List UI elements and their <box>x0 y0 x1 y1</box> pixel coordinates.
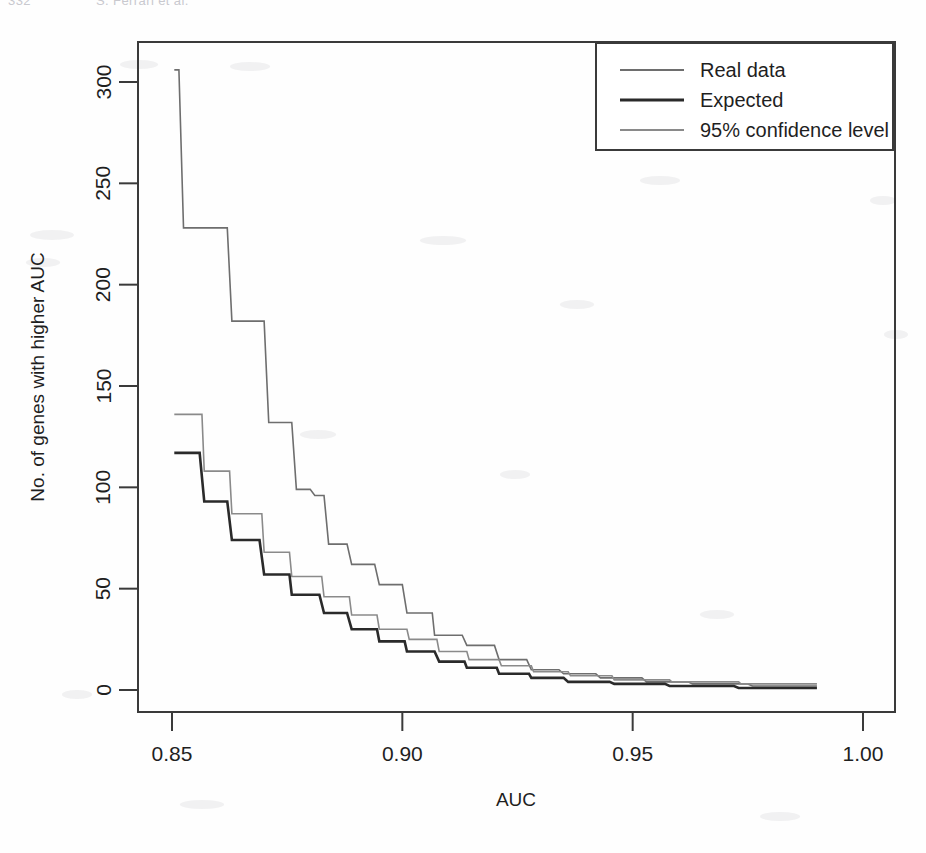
y-tick-label: 150 <box>92 368 115 403</box>
series-line-95-confidence-level <box>174 414 817 684</box>
data-series-group <box>174 70 817 688</box>
y-tick-label: 0 <box>92 684 115 696</box>
scanned-page: 332 S. Ferrari et al. 0.850.900.951.00 0… <box>0 0 926 853</box>
x-tick-label: 0.85 <box>152 742 193 765</box>
x-axis-tick-labels: 0.850.900.951.00 <box>152 742 884 765</box>
legend-label: Expected <box>700 89 783 111</box>
y-tick-label: 50 <box>92 577 115 600</box>
x-tick-label: 0.90 <box>382 742 423 765</box>
chart-legend: Real dataExpected95% confidence level <box>596 43 893 150</box>
series-line-real-data <box>174 70 817 686</box>
x-axis-ticks <box>172 712 863 731</box>
legend-label: Real data <box>700 59 786 81</box>
x-tick-label: 0.95 <box>612 742 653 765</box>
y-axis-ticks <box>119 82 138 690</box>
y-tick-label: 200 <box>92 267 115 302</box>
legend-label: 95% confidence level <box>700 119 889 141</box>
auc-survival-chart: 0.850.900.951.00 050100150200250300 AUC … <box>0 0 926 853</box>
y-axis-title: No. of genes with higher AUC <box>27 252 48 501</box>
y-tick-label: 300 <box>92 64 115 99</box>
y-tick-label: 250 <box>92 166 115 201</box>
series-line-expected <box>174 453 817 688</box>
x-tick-label: 1.00 <box>843 742 884 765</box>
y-tick-label: 100 <box>92 470 115 505</box>
y-axis-tick-labels: 050100150200250300 <box>92 64 115 695</box>
x-axis-title: AUC <box>496 789 536 810</box>
